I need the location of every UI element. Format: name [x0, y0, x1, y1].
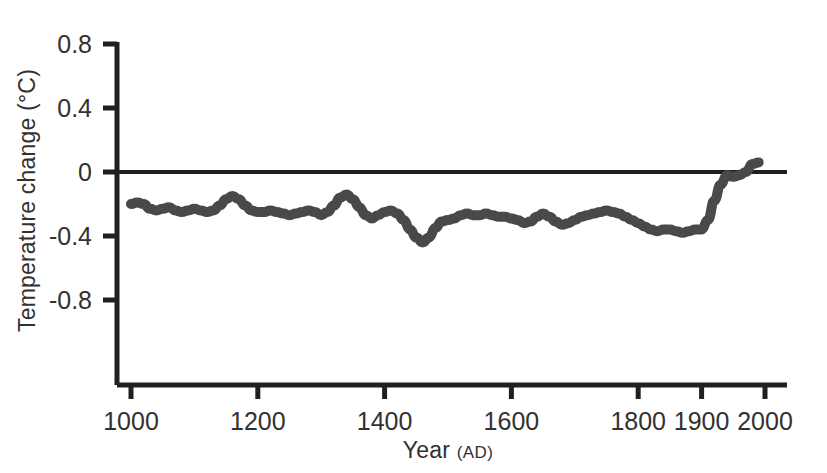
x-axis-tick-label: 2000	[737, 407, 793, 436]
x-axis-tick-label: 1600	[484, 407, 540, 436]
temperature-series-line	[131, 162, 759, 242]
x-axis-tick-label: 1400	[357, 407, 413, 436]
x-axis-tick-label: 1800	[610, 407, 666, 436]
x-axis-tick-label: 1000	[103, 407, 159, 436]
x-axis-label-text: Year (AD)	[403, 437, 493, 463]
x-axis-label-era: (AD)	[457, 443, 494, 462]
x-axis-tick-label: 1900	[674, 407, 730, 436]
x-axis-tick-label: 1200	[230, 407, 286, 436]
chart-plot-area	[0, 0, 827, 473]
y-axis-label: Temperature change (°C)	[0, 0, 56, 400]
y-axis-label-text: Temperature change (°C)	[15, 68, 42, 331]
x-axis-label-main: Year	[403, 437, 450, 463]
x-axis-label: Year (AD)	[131, 437, 765, 464]
temperature-chart-figure: 0.80.40-0.4-0.8 100012001400160018001900…	[0, 0, 827, 473]
